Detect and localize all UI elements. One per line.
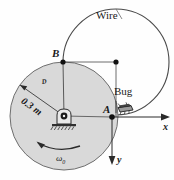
figure-canvas bbox=[0, 0, 174, 180]
angular-velocity-label: ω0 bbox=[56, 154, 65, 165]
y-axis-label: y bbox=[117, 155, 121, 165]
point-b-label: B bbox=[52, 48, 59, 59]
wire-label: Wire bbox=[96, 10, 118, 21]
x-axis-label: x bbox=[163, 122, 168, 132]
wire-center-marker bbox=[113, 59, 118, 64]
point-b-marker bbox=[60, 59, 65, 64]
disk-symbol-label: ᴰ bbox=[41, 77, 47, 89]
point-a-label: A bbox=[103, 104, 110, 115]
y-axis-arrow-icon bbox=[109, 156, 116, 165]
omega-subscript: 0 bbox=[62, 159, 65, 165]
point-a-marker bbox=[109, 114, 115, 120]
bug-label: Bug bbox=[114, 86, 132, 97]
mechanics-figure: Wire Bug A B ᴰ 0.3 m ω0 x y bbox=[0, 0, 174, 180]
x-axis-arrow-icon bbox=[161, 114, 170, 121]
